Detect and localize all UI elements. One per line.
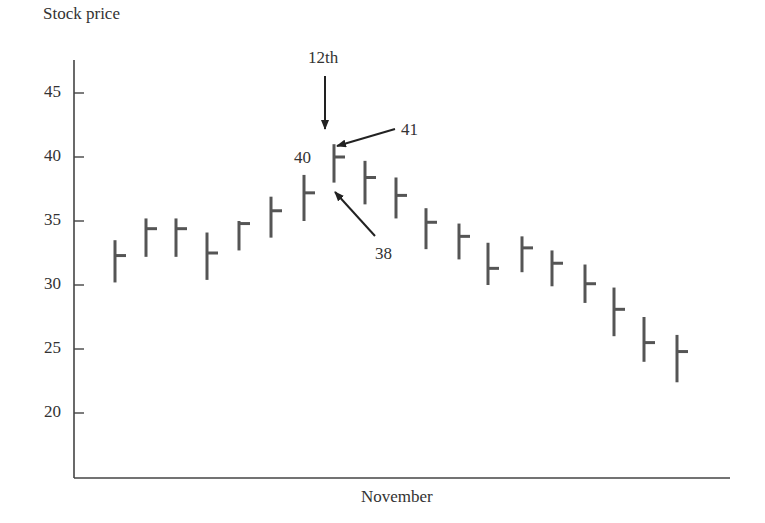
x-axis-label: November: [361, 487, 433, 507]
ohlc-bar: [334, 144, 345, 182]
ohlc-bar: [304, 175, 315, 221]
ohlc-bar: [365, 161, 376, 205]
annotation-date: 12th: [308, 48, 338, 68]
ohlc-bar: [146, 218, 157, 256]
ohlc-bar: [459, 224, 470, 260]
ohlc-bar: [426, 208, 437, 249]
ohlc-bar: [115, 240, 126, 282]
annotation-high: 41: [401, 120, 418, 140]
ohlc-bar: [614, 288, 625, 337]
ohlc-bar: [396, 177, 407, 218]
y-tick-label: 40: [44, 146, 61, 166]
price-bars: [115, 144, 688, 382]
annotation-low: 38: [375, 244, 392, 264]
y-tick-label: 25: [44, 338, 61, 358]
y-tick-label: 20: [44, 402, 61, 422]
annotation-close: 40: [294, 148, 311, 168]
ohlc-bar: [644, 317, 655, 362]
arrow-low-icon: [335, 192, 375, 236]
ohlc-bar: [677, 335, 688, 382]
y-tick-label: 30: [44, 274, 61, 294]
y-axis-label: Stock price: [43, 4, 120, 24]
ohlc-bar: [585, 265, 596, 303]
ohlc-bar: [239, 221, 250, 250]
ohlc-bar: [271, 197, 282, 238]
ohlc-bar: [176, 218, 187, 256]
ohlc-bar: [488, 243, 499, 285]
y-tick-label: 45: [44, 82, 61, 102]
ohlc-bar: [552, 250, 563, 286]
ohlc-bar: [207, 233, 218, 280]
y-tick-label: 35: [44, 210, 61, 230]
ohlc-bar: [522, 236, 533, 272]
arrow-high-icon: [337, 129, 395, 146]
